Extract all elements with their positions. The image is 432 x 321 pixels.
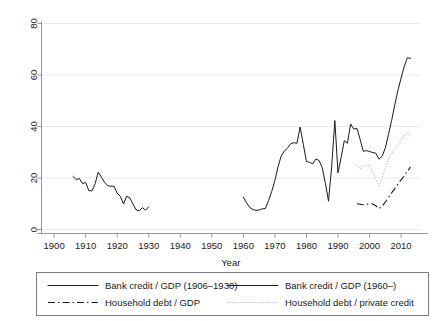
grid-lines xyxy=(42,24,421,230)
legend-label-1: Bank credit / GDP (1960–) xyxy=(285,280,396,291)
y-tick-label-20: 20 xyxy=(28,173,39,184)
series-path-1 xyxy=(243,58,410,211)
x-tick-label-2000: 2000 xyxy=(359,240,380,251)
line-chart: 020406080 190019101920193019401950196019… xyxy=(0,0,432,321)
x-tick-label-1980: 1980 xyxy=(296,240,317,251)
legend-label-2: Household debt / GDP xyxy=(105,297,200,308)
series-path-2 xyxy=(357,167,411,209)
x-tick-label-1920: 1920 xyxy=(107,240,128,251)
x-tick-label-1900: 1900 xyxy=(44,240,65,251)
x-tick-label-1990: 1990 xyxy=(327,240,348,251)
y-tick-label-0: 0 xyxy=(28,227,39,232)
x-tick-label-1970: 1970 xyxy=(264,240,285,251)
y-axis-ticks: 020406080 xyxy=(28,18,42,232)
x-tick-label-1940: 1940 xyxy=(170,240,191,251)
x-tick-label-1910: 1910 xyxy=(75,240,96,251)
chart-legend[interactable]: Bank credit / GDP (1906–1930)Bank credit… xyxy=(37,273,429,316)
x-tick-label-2010: 2010 xyxy=(391,240,412,251)
x-axis-ticks: 1900191019201930194019501960197019801990… xyxy=(44,234,412,251)
y-tick-label-80: 80 xyxy=(28,18,39,29)
x-tick-label-1950: 1950 xyxy=(201,240,222,251)
legend-frame xyxy=(37,273,429,316)
y-tick-label-60: 60 xyxy=(28,70,39,81)
x-tick-label-1930: 1930 xyxy=(138,240,159,251)
legend-label-3: Household debt / private credit xyxy=(285,297,414,308)
chart-figure: 020406080 190019101920193019401950196019… xyxy=(0,0,432,321)
x-axis-title: Year xyxy=(221,257,240,268)
data-series xyxy=(73,58,411,211)
axis-lines xyxy=(38,22,429,234)
y-tick-label-40: 40 xyxy=(28,121,39,132)
legend-label-0: Bank credit / GDP (1906–1930) xyxy=(105,280,237,291)
x-axis-label: Year xyxy=(221,257,240,268)
x-tick-label-1960: 1960 xyxy=(233,240,254,251)
